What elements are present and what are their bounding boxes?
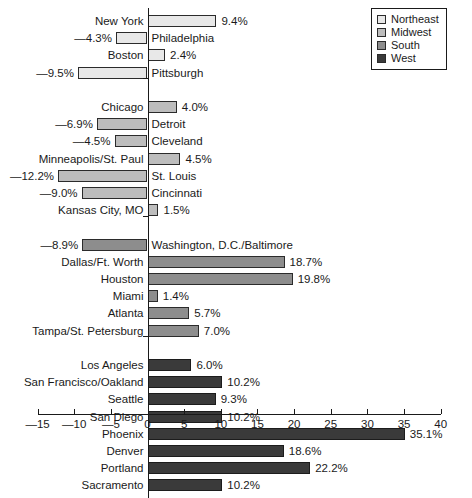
value-label: 22.2% bbox=[315, 460, 435, 477]
x-axis-tick-label: 15 bbox=[237, 418, 277, 430]
value-label: —4.3% bbox=[0, 30, 112, 47]
x-axis-tick-label: 5 bbox=[164, 418, 204, 430]
bar bbox=[148, 273, 293, 285]
group-separator-tick bbox=[143, 216, 148, 217]
category-label: Houston bbox=[0, 271, 144, 288]
category-label: Detroit bbox=[152, 116, 472, 133]
category-label: Atlanta bbox=[0, 305, 144, 322]
x-axis-tick-label: 10 bbox=[201, 418, 241, 430]
bar-row: Chicago4.0% bbox=[0, 99, 472, 116]
legend: NortheastMidwestSouthWest bbox=[371, 8, 447, 70]
category-label: Miami bbox=[0, 288, 144, 305]
category-label: Boston bbox=[0, 47, 144, 64]
category-label: Washington, D.C./Baltimore bbox=[152, 237, 472, 254]
value-label: —4.5% bbox=[0, 133, 111, 150]
bar-row: Denver18.6% bbox=[0, 443, 472, 460]
bar-row: Miami1.4% bbox=[0, 288, 472, 305]
category-label: Minneapolis/St. Paul bbox=[0, 151, 144, 168]
x-axis-tick-label: —15 bbox=[18, 418, 58, 430]
bar-row: Atlanta5.7% bbox=[0, 305, 472, 322]
group-separator-tick bbox=[143, 336, 148, 337]
bar bbox=[148, 376, 223, 388]
bar bbox=[115, 135, 148, 147]
bar bbox=[148, 359, 192, 371]
value-label: 7.0% bbox=[204, 323, 324, 340]
category-label: Los Angeles bbox=[0, 357, 144, 374]
x-axis-tick-label: —10 bbox=[54, 418, 94, 430]
value-label: 9.4% bbox=[221, 13, 341, 30]
category-label: New York bbox=[0, 13, 144, 30]
legend-item: South bbox=[377, 39, 439, 52]
bar bbox=[58, 170, 147, 182]
bar bbox=[148, 153, 181, 165]
x-axis-tick-label: 0 bbox=[128, 418, 168, 430]
bar-row: Houston19.8% bbox=[0, 271, 472, 288]
value-label: —9.5% bbox=[0, 65, 74, 82]
bar-row: Cincinnati—9.0% bbox=[0, 185, 472, 202]
bar bbox=[78, 67, 148, 79]
value-label: —8.9% bbox=[0, 237, 78, 254]
bar bbox=[148, 15, 217, 27]
bar bbox=[148, 204, 159, 216]
bar-row: Washington, D.C./Baltimore—8.9% bbox=[0, 237, 472, 254]
category-label: San Francisco/Oakland bbox=[0, 374, 144, 391]
category-label: Cincinnati bbox=[152, 185, 472, 202]
x-axis-tick bbox=[74, 409, 75, 414]
bar-row: Los Angeles6.0% bbox=[0, 357, 472, 374]
x-axis-tick bbox=[111, 409, 112, 414]
x-axis-tick-label: 40 bbox=[421, 418, 461, 430]
legend-swatch-icon bbox=[377, 41, 386, 50]
bar-row: Kansas City, MO1.5% bbox=[0, 202, 472, 219]
value-label: 10.2% bbox=[227, 477, 347, 494]
value-label: 18.6% bbox=[289, 443, 409, 460]
category-label: Portland bbox=[0, 460, 144, 477]
bar bbox=[82, 239, 147, 251]
value-label: 1.5% bbox=[163, 202, 283, 219]
bar-row: Detroit—6.9% bbox=[0, 116, 472, 133]
category-label: Chicago bbox=[0, 99, 144, 116]
x-axis-line bbox=[38, 414, 441, 415]
value-label: 5.7% bbox=[194, 305, 314, 322]
bar bbox=[148, 307, 190, 319]
value-label: —9.0% bbox=[0, 185, 78, 202]
legend-item: Northeast bbox=[377, 13, 439, 26]
value-label: —12.2% bbox=[0, 168, 54, 185]
bar bbox=[148, 462, 311, 474]
group-separator-tick bbox=[143, 78, 148, 79]
value-label: 1.4% bbox=[163, 288, 283, 305]
value-label: 18.7% bbox=[290, 254, 410, 271]
bar bbox=[148, 445, 284, 457]
bar bbox=[82, 187, 148, 199]
x-axis-tick-label: 25 bbox=[311, 418, 351, 430]
x-axis-tick bbox=[257, 409, 258, 414]
bar-row: St. Louis—12.2% bbox=[0, 168, 472, 185]
category-label: Sacramento bbox=[0, 477, 144, 494]
value-label: 6.0% bbox=[196, 357, 316, 374]
legend-item: West bbox=[377, 52, 439, 65]
category-label: Dallas/Ft. Worth bbox=[0, 254, 144, 271]
bar-row: San Francisco/Oakland10.2% bbox=[0, 374, 472, 391]
bar bbox=[148, 325, 199, 337]
value-label: 2.4% bbox=[170, 47, 290, 64]
bar-row: Portland22.2% bbox=[0, 460, 472, 477]
category-label: Kansas City, MO bbox=[0, 202, 144, 219]
x-axis-tick bbox=[148, 409, 149, 414]
x-axis-tick-label: —5 bbox=[91, 418, 131, 430]
x-axis: —15—10—50510152025303540 bbox=[0, 404, 472, 441]
bar bbox=[97, 118, 148, 130]
bar bbox=[148, 101, 177, 113]
x-axis-tick bbox=[38, 409, 39, 414]
legend-swatch-icon bbox=[377, 54, 386, 63]
x-axis-tick-label: 20 bbox=[274, 418, 314, 430]
category-label: Tampa/St. Petersburg bbox=[0, 323, 144, 340]
legend-label: West bbox=[391, 52, 416, 65]
value-label: 19.8% bbox=[298, 271, 418, 288]
legend-label: Northeast bbox=[391, 13, 439, 26]
category-label: Cleveland bbox=[152, 133, 472, 150]
x-axis-tick bbox=[367, 409, 368, 414]
bar-row: Dallas/Ft. Worth18.7% bbox=[0, 254, 472, 271]
x-axis-tick bbox=[294, 409, 295, 414]
bar bbox=[148, 290, 158, 302]
x-axis-tick bbox=[441, 409, 442, 414]
